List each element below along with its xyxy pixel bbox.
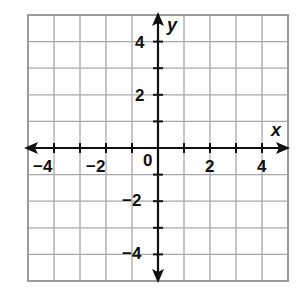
x-axis-label: x [270,120,282,140]
x-tick-label-4: 4 [257,157,267,176]
x-tick-label-neg4: −4 [33,157,53,176]
y-tick-label-neg4: −4 [122,244,142,263]
y-tick-label-4: 4 [135,33,145,52]
y-tick-label-2: 2 [135,86,144,105]
coordinate-plane: x y −4 −2 0 2 4 4 2 −2 −4 [0,0,306,295]
y-axis-label: y [166,15,178,35]
x-tick-label-0: 0 [143,151,152,170]
x-tick-label-2: 2 [205,157,214,176]
y-tick-label-neg2: −2 [122,191,141,210]
x-tick-label-neg2: −2 [86,157,105,176]
x-tick-labels: −4 −2 0 2 4 [33,151,267,176]
